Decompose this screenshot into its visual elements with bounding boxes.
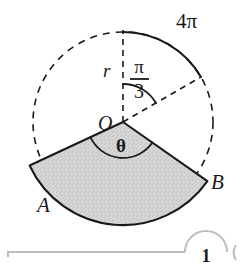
angle-pi-over-3-denominator: 3 [134, 80, 144, 102]
figure-container: 4π r π 3 O θ A B 1 [0, 0, 245, 266]
footer-page-number: 1 [202, 246, 211, 266]
arc-length-label: 4π [176, 9, 198, 33]
point-b-label: B [211, 170, 224, 194]
radius-label: r [103, 60, 111, 81]
center-point-label: O [98, 112, 112, 134]
geometry-figure: 4π r π 3 O θ A B 1 [0, 0, 245, 266]
theta-label: θ [116, 135, 126, 156]
point-a-label: A [35, 193, 50, 217]
angle-pi-over-3-numerator: π [134, 56, 144, 77]
